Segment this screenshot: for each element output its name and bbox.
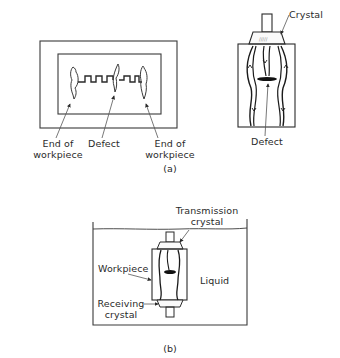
caption-b: (b) [155, 343, 185, 354]
workpiece-with-crystal: ///// [238, 14, 295, 136]
label-liquid: Liquid [200, 275, 229, 286]
label-defect-display: Defect [82, 138, 126, 149]
svg-text://///: ///// [259, 36, 268, 42]
oscilloscope-display [40, 41, 177, 138]
label-transmission-crystal: Transmission crystal [172, 205, 242, 227]
label-defect-workpiece: Defect [245, 136, 289, 147]
ultrasonic-inspection-figure: ///// [0, 0, 340, 358]
label-crystal: Crystal [289, 9, 323, 20]
diagram-drawing: ///// [0, 0, 340, 358]
label-end-of-workpiece-right: End of workpiece [140, 138, 200, 160]
label-receiving-crystal: Receiving crystal [96, 298, 146, 320]
label-end-of-workpiece-left: End of workpiece [28, 138, 88, 160]
caption-a: (a) [155, 163, 185, 174]
label-workpiece: Workpiece [98, 263, 149, 274]
